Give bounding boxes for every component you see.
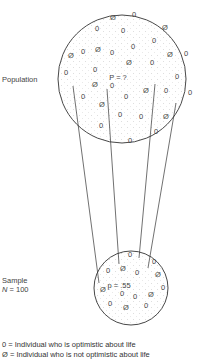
- optimistic-individual-symbol: 0: [81, 47, 85, 56]
- not-optimistic-individual-symbol: Ø: [167, 50, 173, 59]
- not-optimistic-individual-symbol: Ø: [110, 13, 116, 22]
- optimistic-individual-symbol: 0: [128, 136, 132, 145]
- optimistic-individual-symbol: 0: [124, 92, 128, 101]
- optimistic-individual-symbol: 0: [152, 257, 156, 266]
- not-optimistic-individual-symbol: Ø: [126, 58, 132, 67]
- legend-optimistic: 0 = Individual who is optimistic about l…: [2, 340, 150, 350]
- sample-size-label: N = 100: [2, 285, 28, 294]
- not-optimistic-individual-symbol: Ø: [143, 86, 149, 95]
- optimistic-individual-symbol: 0: [110, 48, 114, 57]
- not-optimistic-individual-symbol: Ø: [92, 80, 98, 89]
- not-optimistic-individual-symbol: Ø: [155, 270, 161, 279]
- optimistic-individual-symbol: 0: [93, 65, 97, 74]
- optimistic-individual-symbol: 0: [121, 26, 125, 35]
- optimistic-individual-symbol: 0: [150, 58, 154, 67]
- sample-label: Sample N = 100: [2, 276, 28, 294]
- not-optimistic-individual-symbol: Ø: [163, 112, 169, 121]
- optimistic-individual-symbol: 0: [152, 36, 156, 45]
- not-optimistic-individual-symbol: Ø: [100, 285, 106, 294]
- optimistic-individual-symbol: 0: [139, 112, 143, 121]
- legend-not-optimistic: Ø = Individual who is not optimistic abo…: [2, 350, 150, 360]
- not-optimistic-individual-symbol: Ø: [99, 100, 105, 109]
- not-optimistic-individual-symbol: Ø: [120, 264, 126, 273]
- optimistic-individual-symbol: 0: [164, 86, 168, 95]
- optimistic-individual-symbol: 0: [133, 292, 137, 301]
- not-optimistic-individual-symbol: Ø: [148, 290, 154, 299]
- optimistic-individual-symbol: 0: [154, 127, 158, 136]
- sample-circle-group: 000Ø0Ø0Ø00Ø0Ø0 p = .55: [94, 250, 168, 325]
- optimistic-individual-symbol: 0: [120, 289, 124, 298]
- optimistic-individual-symbol: 0: [188, 88, 192, 97]
- optimistic-individual-symbol: 0: [64, 68, 68, 77]
- population-parameter: P = ?: [109, 73, 127, 82]
- optimistic-individual-symbol: 0: [95, 24, 99, 33]
- sample-label-title: Sample: [2, 276, 28, 285]
- not-optimistic-individual-symbol: Ø: [68, 51, 74, 60]
- optimistic-individual-symbol: 0: [161, 283, 165, 292]
- not-optimistic-individual-symbol: Ø: [162, 23, 168, 32]
- sample-statistic: p = .55: [107, 281, 130, 290]
- optimistic-individual-symbol: 0: [128, 250, 132, 259]
- optimistic-individual-symbol: 0: [175, 72, 179, 81]
- legend: 0 = Individual who is optimistic about l…: [2, 340, 150, 360]
- optimistic-individual-symbol: 0: [132, 10, 136, 19]
- optimistic-individual-symbol: 0: [81, 92, 85, 101]
- sample-size-value: = 100: [7, 285, 28, 294]
- population-label: Population: [2, 75, 37, 84]
- optimistic-individual-symbol: 0: [99, 121, 103, 130]
- optimistic-individual-symbol: 0: [106, 266, 110, 275]
- not-optimistic-individual-symbol: Ø: [123, 303, 129, 312]
- optimistic-individual-symbol: 0: [108, 299, 112, 308]
- optimistic-individual-symbol: 0: [184, 49, 188, 58]
- optimistic-individual-symbol: 0: [144, 301, 148, 310]
- optimistic-individual-symbol: 0: [110, 81, 114, 90]
- optimistic-individual-symbol: 0: [135, 268, 139, 277]
- not-optimistic-individual-symbol: Ø: [95, 45, 101, 54]
- optimistic-individual-symbol: 0: [118, 110, 122, 119]
- optimistic-individual-symbol: 0: [131, 42, 135, 51]
